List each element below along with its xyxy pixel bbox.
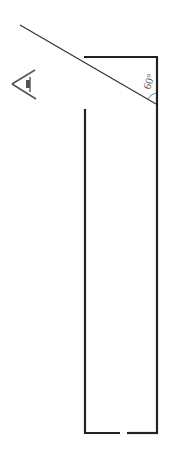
mirror-line [20,25,156,104]
periscope-diagram: 60° [0,0,169,458]
angle-label: 60° [140,72,156,90]
eye-icon [12,70,36,99]
angle-arc [148,93,156,99]
